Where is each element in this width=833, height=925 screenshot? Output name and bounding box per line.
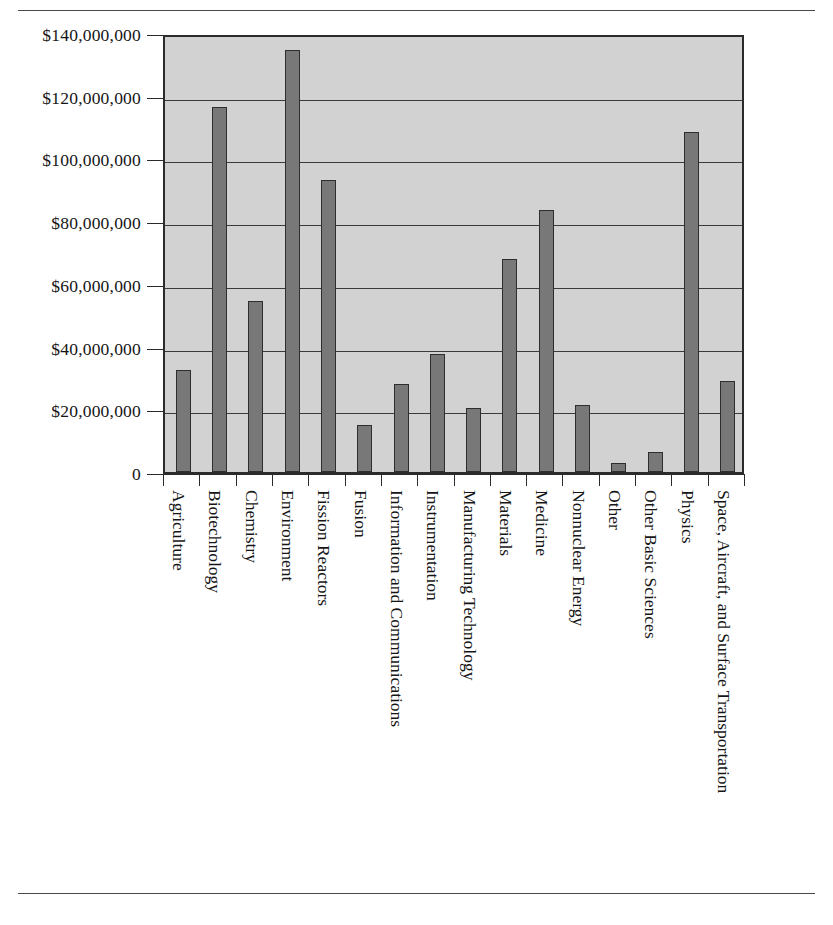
x-axis-category-label: Medicine [533, 490, 551, 556]
y-axis-tick-mark [147, 286, 163, 287]
bar [466, 408, 481, 472]
x-axis-category-label: Physics [678, 490, 696, 543]
y-axis-tick-label: $120,000,000 [42, 87, 141, 108]
x-axis-tick-mark [417, 474, 418, 486]
plot-area [163, 35, 744, 474]
x-axis-category-label: Other [605, 490, 623, 530]
bar [502, 259, 517, 472]
y-axis-tick-mark [147, 411, 163, 412]
x-axis-tick-mark [308, 474, 309, 486]
x-axis-category-label: Biotechnology [206, 490, 224, 593]
bar [575, 405, 590, 472]
y-axis-tick-mark [147, 160, 163, 161]
bar [357, 425, 372, 472]
bar [648, 452, 663, 472]
bar [684, 132, 699, 472]
x-axis-tick-mark [671, 474, 672, 486]
bar [539, 210, 554, 472]
y-axis: $140,000,000$120,000,000$100,000,000$80,… [0, 0, 163, 925]
bar [611, 463, 626, 472]
bar [176, 370, 191, 472]
bar [430, 354, 445, 472]
x-axis-tick-mark [163, 474, 164, 486]
x-axis-tick-mark [199, 474, 200, 486]
y-axis-tick-mark [147, 35, 163, 36]
y-axis-tick-mark [147, 474, 163, 475]
x-axis-category-label: Fission Reactors [315, 490, 333, 606]
x-axis-tick-mark [490, 474, 491, 486]
bar-series [165, 37, 742, 472]
y-axis-tick-label: $140,000,000 [42, 25, 141, 46]
x-axis-tick-mark [381, 474, 382, 486]
y-axis-tick-mark [147, 223, 163, 224]
y-axis-tick-mark [147, 349, 163, 350]
bar [394, 384, 409, 472]
x-axis-tick-mark [744, 474, 745, 486]
bar-chart-figure: $140,000,000$120,000,000$100,000,000$80,… [0, 0, 833, 925]
x-axis: AgricultureBiotechnologyChemistryEnviron… [163, 474, 744, 894]
x-axis-category-label: Fusion [351, 490, 369, 538]
y-axis-tick-mark [147, 98, 163, 99]
bar [720, 381, 735, 472]
x-axis-category-label: Environment [279, 490, 297, 581]
x-axis-tick-mark [454, 474, 455, 486]
x-axis-category-label: Other Basic Sciences [642, 490, 660, 639]
bar [285, 50, 300, 472]
x-axis-category-label: Manufacturing Technology [460, 490, 478, 680]
x-axis-tick-mark [526, 474, 527, 486]
x-axis-category-label: Instrumentation [424, 490, 442, 601]
x-axis-tick-mark [236, 474, 237, 486]
x-axis-category-label: Chemistry [242, 490, 260, 563]
y-axis-tick-label: $80,000,000 [51, 213, 141, 234]
y-axis-tick-label: $60,000,000 [51, 275, 141, 296]
x-axis-category-label: Materials [496, 490, 514, 556]
x-axis-tick-mark [599, 474, 600, 486]
x-axis-category-label: Nonnuclear Energy [569, 490, 587, 626]
y-axis-tick-label: $40,000,000 [51, 338, 141, 359]
x-axis-category-label: Information and Communications [388, 490, 406, 727]
bar [212, 107, 227, 472]
x-axis-tick-mark [562, 474, 563, 486]
y-axis-tick-label: 0 [132, 464, 141, 485]
x-axis-tick-mark [635, 474, 636, 486]
x-axis-category-label: Agriculture [170, 490, 188, 571]
bar [248, 301, 263, 472]
bar [321, 180, 336, 472]
y-axis-tick-label: $20,000,000 [51, 401, 141, 422]
y-axis-tick-label: $100,000,000 [42, 150, 141, 171]
x-axis-tick-mark [708, 474, 709, 486]
x-axis-tick-mark [345, 474, 346, 486]
x-axis-tick-mark [272, 474, 273, 486]
x-axis-category-label: Space, Aircraft, and Surface Transportat… [714, 490, 732, 793]
